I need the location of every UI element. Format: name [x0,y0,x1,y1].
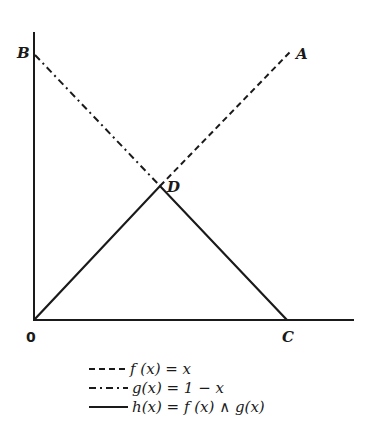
label-a: A [294,45,308,63]
label-c: C [282,328,294,346]
h-line-solid [34,186,287,320]
min-function-diagram: B A D 0 C f (x) = x g(x) = 1 − x h(x) = … [0,0,379,444]
legend-item-f: f (x) = x [89,360,192,378]
legend-item-h: h(x) = f (x) ∧ g(x) [89,398,265,416]
legend-item-g: g(x) = 1 − x [89,379,225,397]
g-line-dashdot [35,55,160,186]
legend: f (x) = x g(x) = 1 − x h(x) = f (x) ∧ g(… [89,360,265,416]
legend-label-h: h(x) = f (x) ∧ g(x) [132,398,265,416]
legend-label-f: f (x) = x [129,360,192,378]
legend-label-g: g(x) = 1 − x [132,379,225,397]
f-line-dashed [160,52,290,186]
label-d: D [166,178,180,196]
label-origin: 0 [26,329,36,345]
label-b: B [16,44,30,62]
